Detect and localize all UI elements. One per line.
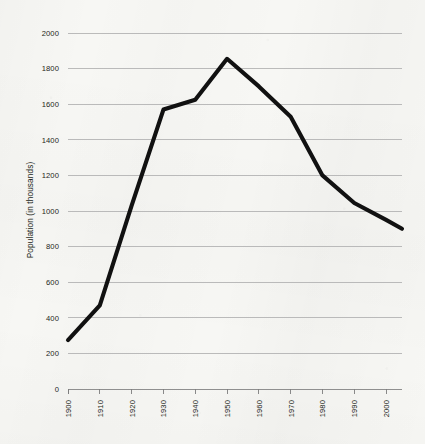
x-axis-tick-label: 1990 <box>350 400 359 417</box>
y-axis-tick-label: 1400 <box>42 136 59 145</box>
y-axis-tick-label: 1800 <box>42 64 59 73</box>
x-axis-tick-label: 2000 <box>382 400 391 417</box>
y-axis-tick-label: 1000 <box>42 207 59 216</box>
y-axis-tick-labels: 0200400600800100012001400160018002000 <box>42 29 59 394</box>
y-axis-tick-label: 600 <box>46 278 59 287</box>
x-axis-tick-label: 1910 <box>96 400 105 417</box>
population-line-chart: 0200400600800100012001400160018002000 19… <box>0 0 425 444</box>
y-axis-tick-label: 2000 <box>42 29 59 38</box>
y-axis-tick-label: 0 <box>55 385 59 394</box>
y-axis-tick-label: 1600 <box>42 100 59 109</box>
data-series-group <box>68 59 402 340</box>
x-axis-tick-label: 1930 <box>159 400 168 417</box>
x-axis-tick-labels: 1900191019201930194019501960197019801990… <box>64 400 391 417</box>
x-axis <box>68 389 402 394</box>
y-axis-tick-label: 200 <box>46 349 59 358</box>
population-line-path <box>68 59 402 340</box>
x-axis-tick-label: 1970 <box>287 400 296 417</box>
gridlines <box>68 33 402 353</box>
y-axis-title-label: Population (in thousands) <box>26 162 35 259</box>
y-axis-title: Population (in thousands) <box>26 162 35 259</box>
chart-container: 0200400600800100012001400160018002000 19… <box>0 0 425 444</box>
y-axis-tick-label: 1200 <box>42 171 59 180</box>
y-axis-tick-label: 400 <box>46 314 59 323</box>
x-axis-tick-label: 1920 <box>128 400 137 417</box>
x-axis-tick-label: 1980 <box>318 400 327 417</box>
x-axis-tick-label: 1950 <box>223 400 232 417</box>
x-axis-tick-label: 1960 <box>255 400 264 417</box>
x-axis-tick-label: 1940 <box>191 400 200 417</box>
y-axis-tick-label: 800 <box>46 242 59 251</box>
x-axis-tick-label: 1900 <box>64 400 73 417</box>
